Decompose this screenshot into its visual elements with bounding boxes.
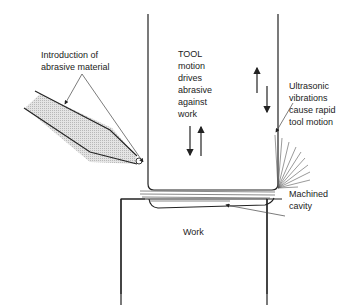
work-label: Work: [183, 226, 204, 238]
ultrasonic-machining-diagram: [0, 0, 350, 305]
abrasive-nozzle: [0, 91, 142, 164]
cavity-label: Machined cavity: [289, 188, 328, 212]
ultrasonic-label: Ultrasonic vibrations cause rapid tool m…: [289, 80, 336, 128]
tool: [148, 14, 278, 190]
work-piece: [121, 199, 282, 305]
ultrasonic-fan-lines: [275, 135, 310, 188]
cavity-leader: [226, 205, 285, 216]
tool-label: TOOL motion drives abrasive against work: [178, 48, 212, 120]
abrasive-intro-label: Introduction of abrasive material: [41, 49, 110, 73]
vibration-arrows: [257, 68, 267, 112]
tool-motion-arrows: [190, 126, 201, 156]
